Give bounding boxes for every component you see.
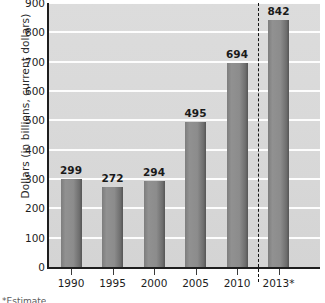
bar [144,181,165,267]
x-axis-tick [237,269,238,275]
y-axis-tick-label: 200 [0,202,45,214]
y-axis-tick-label: 0 [0,261,45,273]
y-axis-line [47,3,49,269]
footnote-text: *Estimate [2,296,46,303]
y-axis-tick-label: 900 [0,0,45,9]
x-axis-tick [196,269,197,275]
x-axis-tick [279,269,280,275]
y-axis-tick-labels: 0100200300400500600700800900 [0,0,45,303]
x-axis-tick [154,269,155,275]
x-axis-tick-label: 2000 [141,277,168,289]
y-axis-tick-label: 300 [0,173,45,185]
bar-value-label: 495 [185,107,207,119]
y-axis-tick-label: 600 [0,85,45,97]
y-axis-tick-label: 400 [0,144,45,156]
y-axis-tick-label: 500 [0,114,45,126]
bar [185,122,206,267]
gridline [49,3,320,4]
x-axis-tick-label: 1990 [58,277,85,289]
y-axis-tick-label: 100 [0,232,45,244]
y-axis-tick-label: 700 [0,56,45,68]
bar-chart: Dollars (in billions, current dollars) 0… [0,0,325,303]
plot-area [49,3,320,267]
x-axis-tick-label: 2013* [263,277,295,289]
bar [227,63,248,267]
x-axis-tick-label: 2010 [224,277,251,289]
bar-value-label: 272 [102,172,124,184]
x-axis-tick-label: 1995 [99,277,126,289]
bar-value-label: 294 [143,166,165,178]
forecast-divider-line-lower [258,269,259,282]
x-axis-tick [113,269,114,275]
x-axis-tick-label: 2005 [182,277,209,289]
bar-value-label: 299 [60,164,82,176]
bar-value-label: 842 [268,5,290,17]
bar [268,20,289,267]
bar [61,179,82,267]
bar-value-label: 694 [226,48,248,60]
bar [102,187,123,267]
y-axis-tick-label: 800 [0,26,45,38]
forecast-divider-line [258,3,259,267]
x-axis-tick [71,269,72,275]
